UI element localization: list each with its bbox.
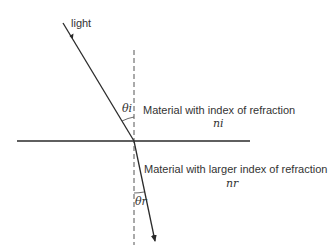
lower-material-label: Material with larger index of refraction xyxy=(144,163,327,175)
theta-i-label: θi xyxy=(122,103,132,115)
theta-r-label: θr xyxy=(135,196,147,208)
lower-index-label: nr xyxy=(226,178,238,190)
refracted-ray xyxy=(134,141,155,241)
incident-ray xyxy=(63,23,134,141)
theta-r-arc xyxy=(134,192,144,193)
light-label: light xyxy=(71,17,91,29)
refraction-diagram xyxy=(0,0,335,248)
upper-material-label: Material with index of refraction xyxy=(143,104,295,116)
theta-i-arc xyxy=(122,117,134,121)
upper-index-label: ni xyxy=(213,118,224,130)
